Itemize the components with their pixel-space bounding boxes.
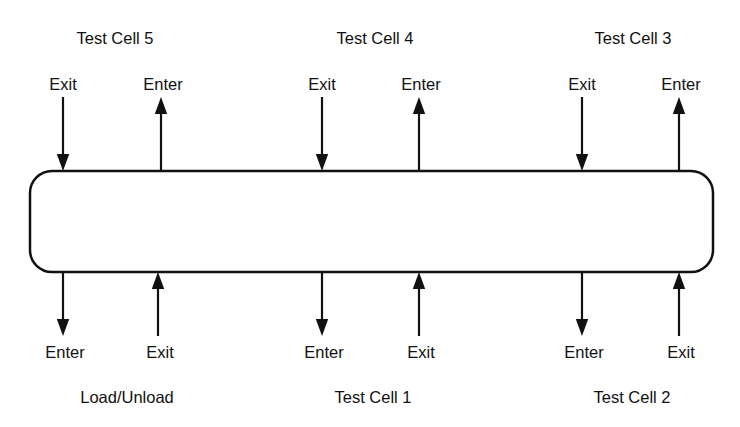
down-arrow-test-cell-5-exit	[57, 97, 69, 171]
port-label-test-cell-5-enter: Enter	[143, 76, 182, 93]
port-label-test-cell-1-enter: Enter	[304, 344, 343, 361]
up-arrow-test-cell-4-enter	[413, 97, 425, 171]
station-name-test-cell-1: Test Cell 1	[334, 389, 411, 406]
port-label-load-unload-enter: Enter	[45, 344, 84, 361]
station-name-test-cell-3: Test Cell 3	[594, 30, 671, 47]
up-arrow-test-cell-2-exit	[673, 272, 685, 336]
port-label-test-cell-1-exit: Exit	[407, 344, 435, 361]
port-label-test-cell-2-exit: Exit	[667, 344, 695, 361]
station-name-test-cell-2: Test Cell 2	[593, 389, 670, 406]
diagram-canvas: Test Cell 5ExitEnterTest Cell 4ExitEnter…	[0, 0, 740, 427]
station-name-load-unload: Load/Unload	[80, 389, 174, 406]
down-arrow-test-cell-4-exit	[316, 97, 328, 171]
up-arrow-load-unload-exit	[152, 272, 164, 336]
down-arrow-load-unload-enter	[57, 272, 69, 336]
port-label-load-unload-exit: Exit	[146, 344, 174, 361]
station-name-test-cell-4: Test Cell 4	[336, 30, 413, 47]
port-label-test-cell-3-exit: Exit	[568, 76, 596, 93]
station-name-test-cell-5: Test Cell 5	[76, 30, 153, 47]
down-arrow-test-cell-3-exit	[576, 97, 588, 171]
diagram-svg	[0, 0, 740, 427]
port-label-test-cell-5-exit: Exit	[49, 76, 77, 93]
port-label-test-cell-4-enter: Enter	[401, 76, 440, 93]
port-label-test-cell-2-enter: Enter	[564, 344, 603, 361]
port-label-test-cell-4-exit: Exit	[308, 76, 336, 93]
up-arrow-test-cell-5-enter	[155, 97, 167, 171]
up-arrow-test-cell-3-enter	[673, 97, 685, 171]
down-arrow-test-cell-2-enter	[576, 272, 588, 336]
up-arrow-test-cell-1-exit	[413, 272, 425, 336]
loop-track-rectangle	[30, 171, 713, 272]
down-arrow-test-cell-1-enter	[316, 272, 328, 336]
port-label-test-cell-3-enter: Enter	[661, 76, 700, 93]
